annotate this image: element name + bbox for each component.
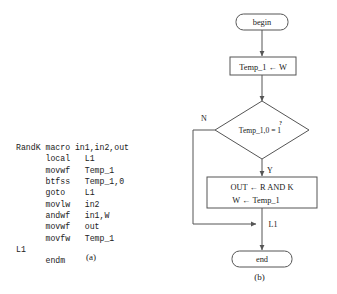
- node-decision: Temp_1,0 = 1 ?: [215, 101, 309, 159]
- node-process-line1: OUT ← R AND K: [230, 183, 293, 192]
- edge-label-no: N: [201, 114, 207, 123]
- node-end: end: [232, 251, 292, 267]
- edge-label-yes: Y: [267, 166, 273, 175]
- panel-b-flowchart: begin Temp_1 ← W Temp_1,0 = 1 ? N Y OUT …: [182, 0, 337, 294]
- node-begin: begin: [236, 14, 288, 30]
- node-assign-temp: Temp_1 ← W: [230, 57, 296, 75]
- flowchart-svg: begin Temp_1 ← W Temp_1,0 = 1 ? N Y OUT …: [182, 0, 337, 272]
- node-decision-question-mark: ?: [279, 120, 282, 126]
- panel-a-code: RandK macro in1,in2,out local L1 movwf T…: [0, 0, 182, 294]
- code-line: goto L1: [16, 187, 129, 198]
- assembly-code-listing: RandK macro in1,in2,out local L1 movwf T…: [16, 142, 129, 266]
- code-line: RandK macro in1,in2,out: [16, 142, 129, 153]
- node-process-out: OUT ← R AND K W ← Temp_1: [207, 177, 317, 208]
- code-line: movwf out: [16, 221, 129, 232]
- node-decision-label: Temp_1,0 = 1: [239, 126, 282, 135]
- code-line: movlw in2: [16, 199, 129, 210]
- node-assign-temp-label: Temp_1 ← W: [239, 63, 287, 72]
- code-line: andwf in1,W: [16, 210, 129, 221]
- code-line: movwf Temp_1: [16, 165, 129, 176]
- node-process-line2: W ← Temp_1: [232, 196, 280, 205]
- code-line: local L1: [16, 153, 129, 164]
- node-begin-label: begin: [253, 18, 272, 27]
- code-line: movfw Temp_1: [16, 233, 129, 244]
- node-end-label: end: [256, 255, 269, 264]
- caption-b: (b): [182, 272, 337, 282]
- junction-label-l1: L1: [269, 220, 278, 229]
- caption-a: (a): [0, 252, 182, 262]
- code-line: btfss Temp_1,0: [16, 176, 129, 187]
